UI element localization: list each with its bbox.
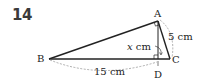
triangle-diagram: A B C D 5 cm x cm 15 cm	[0, 0, 204, 84]
point-label-c: C	[172, 54, 180, 65]
side-ab	[49, 21, 158, 59]
length-label-bd: 15 cm	[94, 66, 126, 77]
length-label-ad: x cm	[127, 41, 151, 52]
length-label-ac: 5 cm	[168, 31, 193, 42]
unit-cm: cm	[133, 41, 152, 52]
point-label-d: D	[154, 69, 162, 80]
point-label-b: B	[37, 53, 44, 64]
point-label-a: A	[153, 8, 162, 19]
